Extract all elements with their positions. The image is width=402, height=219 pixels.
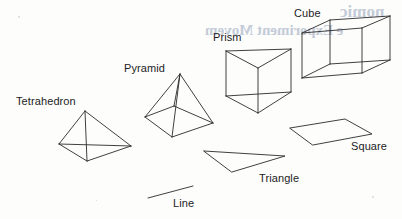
shape-cube-edge-6: [330, 60, 390, 64]
geometric-shapes-figure: nomic e Experiment Movem Tetrahedron Pyr…: [0, 0, 402, 219]
shape-prism-edge-3: [226, 92, 291, 96]
shape-prism: [226, 49, 291, 113]
shape-prism-edge-1: [258, 49, 291, 68]
shape-pyramid-edge-7: [145, 117, 172, 137]
shape-label-line: Line: [173, 197, 194, 209]
shape-pyramid-edge-3: [172, 74, 180, 137]
shape-prism-edge-0: [226, 49, 291, 51]
shape-pyramid: [145, 74, 213, 137]
shape-prism-edge-2: [226, 51, 258, 68]
shape-tetrahedron-edge-0: [59, 111, 85, 144]
shape-drawing-canvas: [0, 0, 402, 219]
shape-triangle-outline: [204, 151, 285, 172]
shape-label-cube: Cube: [294, 7, 321, 19]
shape-label-square: Square: [351, 140, 387, 152]
shape-label-pyramid: Pyramid: [124, 62, 165, 74]
shape-tetrahedron-edge-3: [59, 144, 131, 146]
shape-prism-edge-4: [258, 92, 291, 113]
shape-tetrahedron-edge-4: [59, 144, 87, 161]
shape-tetrahedron-edge-5: [87, 146, 131, 161]
shape-label-prism: Prism: [213, 31, 242, 43]
shape-tetrahedron-edge-2: [85, 111, 87, 161]
shape-tetrahedron-edge-1: [85, 111, 131, 146]
shape-label-triangle: Triangle: [259, 172, 299, 184]
shape-triangle: [204, 151, 285, 172]
shape-cube: [302, 16, 390, 78]
shape-prism-edge-5: [226, 96, 258, 113]
shape-tetrahedron: [59, 111, 131, 161]
shape-pyramid-edge-6: [172, 123, 213, 137]
shape-label-tetrahedron: Tetrahedron: [16, 95, 76, 107]
